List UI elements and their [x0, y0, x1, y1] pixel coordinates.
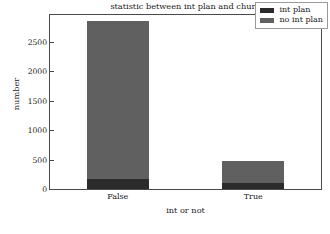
y-axis-tick-label: 2500: [28, 37, 47, 46]
y-axis-tick-mark: [50, 130, 54, 131]
bar-stack-true: [222, 161, 284, 189]
y-axis-tick-label: 2000: [28, 67, 47, 76]
plot-frame: 05001000150020002500FalseTrue: [49, 14, 322, 190]
legend-swatch-int-plan: [260, 8, 274, 13]
bar-segment-int-plan: [222, 183, 284, 189]
legend-label-int-plan: int plan: [279, 5, 310, 15]
y-axis-tick-mark: [50, 42, 54, 43]
y-axis-tick-mark: [50, 160, 54, 161]
bar-segment-int-plan: [87, 179, 149, 189]
legend-item-int-plan: int plan: [260, 5, 323, 15]
x-axis-label: int or not: [49, 205, 322, 215]
y-axis-tick-mark: [50, 71, 54, 72]
y-axis-tick-label: 0: [42, 185, 47, 194]
y-axis-tick-label: 1000: [28, 126, 47, 135]
legend-item-no-int-plan: no int plan: [260, 15, 323, 25]
bar-segment-no-int-plan: [222, 161, 284, 183]
legend-swatch-no-int-plan: [260, 18, 274, 23]
plot-area: 05001000150020002500FalseTrue: [50, 15, 321, 189]
legend-label-no-int-plan: no int plan: [279, 15, 323, 25]
y-axis-tick-label: 1500: [28, 96, 47, 105]
y-axis-tick-mark: [50, 101, 54, 102]
y-axis-tick-label: 500: [33, 155, 48, 164]
chart-legend: int plan no int plan: [255, 2, 328, 29]
x-axis-tick-label: False: [107, 192, 128, 201]
y-axis-label: number: [11, 64, 21, 124]
bar-stack-false: [87, 21, 149, 189]
bar-segment-no-int-plan: [87, 21, 149, 179]
x-axis-tick-label: True: [244, 192, 263, 201]
y-axis-tick-mark: [50, 189, 54, 190]
chart-figure: statistic between int plan and churn 050…: [0, 0, 330, 234]
